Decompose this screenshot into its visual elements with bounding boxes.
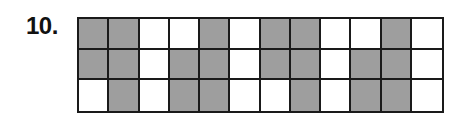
shaded-grid (77, 17, 444, 113)
grid-cell-shaded (109, 19, 139, 50)
grid-cell-shaded (382, 19, 412, 50)
grid-cell-unshaded (140, 50, 170, 81)
grid-cell-shaded (79, 19, 109, 50)
grid-cell-unshaded (170, 19, 200, 50)
grid-cell-shaded (200, 80, 230, 111)
grid-cell-unshaded (321, 19, 351, 50)
grid-cell-shaded (79, 50, 109, 81)
grid-cell-shaded (382, 50, 412, 81)
grid-cell-shaded (261, 50, 291, 81)
grid-cell-shaded (351, 50, 381, 81)
grid-cell-unshaded (412, 19, 442, 50)
grid-cell-shaded (382, 80, 412, 111)
grid-cell-unshaded (351, 19, 381, 50)
grid-cell-unshaded (230, 19, 260, 50)
grid-cell-unshaded (230, 80, 260, 111)
grid-cell-shaded (109, 50, 139, 81)
grid-cell-shaded (291, 50, 321, 81)
grid-cell-unshaded (230, 50, 260, 81)
grid-cell-unshaded (321, 80, 351, 111)
grid-cell-shaded (170, 80, 200, 111)
grid-cell-shaded (200, 19, 230, 50)
grid-cell-unshaded (140, 19, 170, 50)
grid-cell-unshaded (261, 80, 291, 111)
grid-cell-shaded (291, 19, 321, 50)
grid-cell-shaded (109, 80, 139, 111)
grid-cell-shaded (351, 80, 381, 111)
grid-cell-unshaded (412, 50, 442, 81)
grid-cell-unshaded (79, 80, 109, 111)
grid-cell-shaded (200, 50, 230, 81)
grid-cell-unshaded (140, 80, 170, 111)
grid-cell-shaded (291, 80, 321, 111)
grid-cell-unshaded (321, 50, 351, 81)
grid-cell-shaded (170, 50, 200, 81)
problem-number: 10. (26, 12, 58, 40)
grid-cell-unshaded (412, 80, 442, 111)
grid-cell-shaded (261, 19, 291, 50)
